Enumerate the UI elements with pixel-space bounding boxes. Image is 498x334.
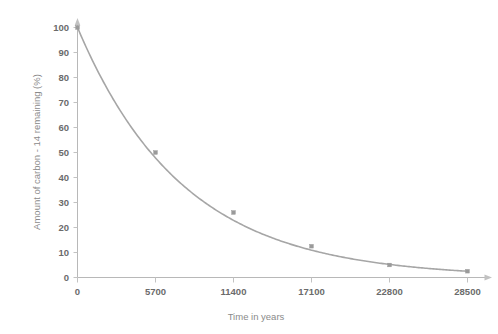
x-tick-label: 28500 (454, 286, 480, 297)
x-axis-title: Time in years (228, 311, 285, 322)
data-point-marker (154, 151, 158, 155)
y-tick-label: 40 (58, 172, 69, 183)
y-tick-label: 50 (58, 147, 69, 158)
data-point-marker (388, 263, 392, 267)
y-tick-label: 60 (58, 122, 69, 133)
decay-curve-chart: 100 90 80 70 60 50 40 30 20 10 0 0 5700 … (0, 0, 498, 334)
data-point-marker (466, 269, 470, 273)
y-axis-title: Amount of carbon - 14 remaining (%) (31, 74, 42, 230)
data-point-marker (76, 26, 80, 30)
chart-background (0, 0, 498, 334)
data-point-marker (310, 244, 314, 248)
y-tick-label: 0 (64, 272, 69, 283)
y-tick-label: 70 (58, 97, 69, 108)
y-tick-label: 20 (58, 222, 69, 233)
y-tick-label: 10 (58, 247, 69, 258)
y-tick-label: 100 (53, 22, 69, 33)
x-tick-label: 22800 (376, 286, 402, 297)
y-tick-label: 90 (58, 47, 69, 58)
x-tick-label: 0 (75, 286, 80, 297)
y-tick-label: 30 (58, 197, 69, 208)
x-tick-label: 5700 (145, 286, 166, 297)
x-tick-label: 11400 (221, 286, 247, 297)
y-tick-label: 80 (58, 72, 69, 83)
chart-container: 100 90 80 70 60 50 40 30 20 10 0 0 5700 … (0, 0, 498, 334)
x-tick-label: 17100 (298, 286, 324, 297)
data-point-marker (232, 211, 236, 215)
